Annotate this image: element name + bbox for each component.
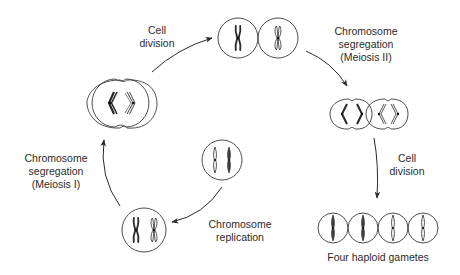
label-meiosis-1: Chromosome segregation (Meiosis I) xyxy=(18,152,94,191)
label-replication: Chromosome replication xyxy=(205,218,275,244)
label-gametes: Four haploid gametes xyxy=(318,251,438,264)
chromosomes-meiosis-2 xyxy=(341,104,399,124)
cell-unreplicated xyxy=(202,140,242,180)
label-cell-division-1: Cell division xyxy=(133,24,181,50)
chromosomes-meiosis-1 xyxy=(109,92,135,114)
arrow-cell-division-2 xyxy=(374,138,378,198)
gametes xyxy=(318,213,438,243)
cells-after-meiosis-1 xyxy=(218,18,298,58)
arrows xyxy=(103,38,378,222)
cell-replicated xyxy=(122,208,166,252)
label-meiosis-2: Chromosome segregation (Meiosis II) xyxy=(326,25,406,64)
arrow-meiosis-1 xyxy=(103,140,120,206)
label-cell-division-2: Cell division xyxy=(384,152,430,178)
arrow-replication xyxy=(172,187,222,222)
